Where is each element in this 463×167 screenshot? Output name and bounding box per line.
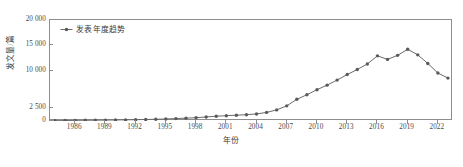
data-point bbox=[406, 48, 409, 51]
y-axis-tick-mark bbox=[49, 19, 53, 20]
x-axis-tick-mark bbox=[225, 120, 226, 124]
data-point bbox=[285, 104, 288, 107]
x-axis-tick-mark bbox=[165, 120, 166, 124]
data-point bbox=[184, 116, 187, 119]
y-axis-tick-mark bbox=[49, 70, 53, 71]
x-axis-tick-label: 2019 bbox=[392, 123, 422, 131]
data-point bbox=[446, 76, 449, 79]
y-axis-tick-label: 10 000 bbox=[26, 66, 46, 74]
x-axis-tick-mark bbox=[256, 120, 257, 124]
y-axis-title: 发文量/篇 bbox=[6, 22, 15, 84]
y-axis-tick-label: 0 bbox=[42, 116, 46, 124]
data-point bbox=[275, 108, 278, 111]
y-axis-tick-label: 2 500 bbox=[29, 103, 46, 111]
x-axis-tick-mark bbox=[195, 120, 196, 124]
data-point bbox=[335, 78, 338, 81]
data-point bbox=[255, 112, 258, 115]
data-point bbox=[63, 119, 66, 121]
data-point bbox=[215, 115, 218, 118]
legend-label: 发表年度趋势 bbox=[76, 25, 126, 34]
data-point bbox=[346, 73, 349, 76]
x-axis-tick-mark bbox=[286, 120, 287, 124]
y-axis-tick-label: 20 000 bbox=[26, 15, 46, 23]
data-point bbox=[144, 118, 147, 121]
data-point bbox=[94, 118, 97, 121]
y-axis-tick-mark bbox=[49, 44, 53, 45]
x-axis-tick-label: 1989 bbox=[89, 123, 119, 131]
x-axis-tick-mark bbox=[316, 120, 317, 124]
plot-area bbox=[49, 19, 452, 120]
x-axis-tick-label: 2016 bbox=[361, 123, 391, 131]
legend: 发表年度趋势 bbox=[60, 25, 126, 34]
data-point bbox=[426, 62, 429, 65]
data-point bbox=[225, 114, 228, 117]
data-point bbox=[154, 118, 157, 121]
data-point bbox=[174, 117, 177, 120]
data-point bbox=[396, 54, 399, 57]
x-axis-tick-mark bbox=[407, 120, 408, 124]
x-axis-tick-label: 1998 bbox=[180, 123, 210, 131]
x-axis-tick-mark bbox=[135, 120, 136, 124]
y-axis-tick-mark bbox=[49, 120, 53, 121]
data-point bbox=[356, 68, 359, 71]
x-axis-tick-label: 2022 bbox=[422, 123, 452, 131]
x-axis-tick-mark bbox=[74, 120, 75, 124]
data-point bbox=[295, 98, 298, 101]
x-axis-tick-mark bbox=[376, 120, 377, 124]
x-axis-tick-mark bbox=[104, 120, 105, 124]
x-axis-tick-mark bbox=[437, 120, 438, 124]
x-axis-tick-label: 1992 bbox=[120, 123, 150, 131]
data-point bbox=[124, 118, 127, 121]
data-point bbox=[84, 119, 87, 121]
data-point bbox=[114, 118, 117, 121]
x-axis-tick-label: 1995 bbox=[150, 123, 180, 131]
y-axis-tick-label: 15 000 bbox=[26, 40, 46, 48]
x-axis-tick-mark bbox=[346, 120, 347, 124]
data-point bbox=[194, 116, 197, 119]
data-line-series bbox=[50, 20, 453, 121]
publication-trend-chart: 02 50010 00015 00020 000 发文量/篇 发表年度趋势 年份… bbox=[0, 0, 463, 167]
y-axis-tick-mark bbox=[49, 107, 53, 108]
data-point bbox=[386, 58, 389, 61]
data-point bbox=[416, 53, 419, 56]
data-point bbox=[204, 115, 207, 118]
data-point bbox=[325, 83, 328, 86]
data-point bbox=[245, 113, 248, 116]
x-axis-tick-label: 2001 bbox=[210, 123, 240, 131]
x-axis-title: 年份 bbox=[0, 136, 463, 145]
x-axis-tick-label: 2013 bbox=[331, 123, 361, 131]
data-point bbox=[305, 93, 308, 96]
data-point bbox=[315, 88, 318, 91]
x-axis-tick-label: 2010 bbox=[301, 123, 331, 131]
legend-line-marker-icon bbox=[60, 26, 73, 33]
data-point bbox=[53, 119, 56, 121]
data-point bbox=[265, 111, 268, 114]
x-axis-tick-label: 2007 bbox=[271, 123, 301, 131]
data-point bbox=[376, 54, 379, 57]
data-point bbox=[366, 62, 369, 65]
data-point bbox=[235, 113, 238, 116]
x-axis-tick-label: 2004 bbox=[241, 123, 271, 131]
x-axis-tick-label: 1986 bbox=[59, 123, 89, 131]
data-point bbox=[436, 71, 439, 74]
